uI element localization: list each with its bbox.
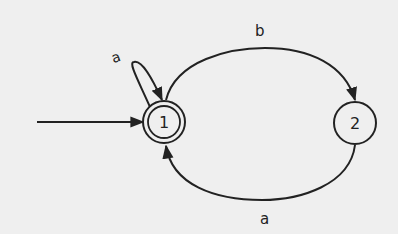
self-loop-edge bbox=[132, 62, 162, 107]
state-1: 1 bbox=[143, 101, 185, 143]
state-1-label: 1 bbox=[159, 113, 169, 132]
state-2-label: 2 bbox=[350, 114, 360, 133]
state-2: 2 bbox=[334, 102, 376, 144]
automaton-diagram: a b a 1 2 bbox=[0, 0, 398, 234]
edge-2-to-1-label: a bbox=[260, 210, 269, 228]
self-loop-label: a bbox=[109, 48, 123, 66]
edge-1-to-2-label: b bbox=[255, 22, 265, 40]
edge-2-to-1 bbox=[166, 145, 355, 200]
edge-1-to-2 bbox=[166, 48, 355, 100]
